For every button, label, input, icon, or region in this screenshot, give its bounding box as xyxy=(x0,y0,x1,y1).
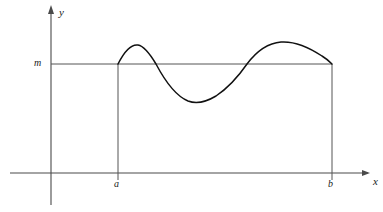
m-value-label: m xyxy=(34,58,41,68)
x-axis xyxy=(10,170,370,176)
figure-canvas: y x m a b xyxy=(0,0,383,212)
x-axis-label: x xyxy=(373,176,378,187)
a-value-label: a xyxy=(114,179,119,189)
b-value-label: b xyxy=(328,179,333,189)
function-curve xyxy=(118,42,332,102)
y-axis-label: y xyxy=(59,7,64,18)
y-axis-arrow-icon xyxy=(48,5,54,14)
y-axis xyxy=(48,5,54,205)
x-axis-arrow-icon xyxy=(362,170,370,176)
coordinate-plot xyxy=(0,0,383,212)
